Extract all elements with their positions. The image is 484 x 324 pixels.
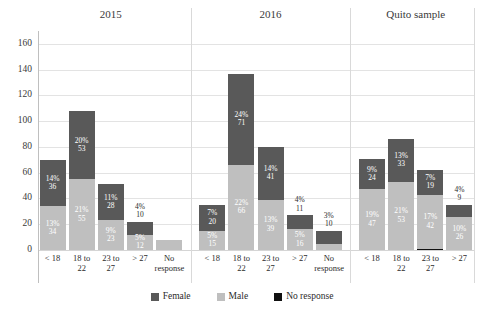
x-axis-tick-label: Noresponse — [155, 253, 184, 273]
bar-segment-female[interactable]: 7%20 — [199, 205, 225, 231]
bar-segment-male[interactable]: 5%16 — [287, 229, 313, 250]
legend-item-no-response[interactable]: No response — [274, 292, 333, 302]
stacked-bar-chart: 020406080100120140160 20152016Quito samp… — [0, 0, 484, 324]
segment-value-label: 20%53 — [75, 137, 89, 154]
y-axis-tick-label: 80 — [4, 142, 32, 152]
chart-legend: FemaleMaleNo response — [0, 292, 484, 302]
segment-value-label: 19%47 — [365, 211, 379, 228]
bar-segment-male[interactable]: 21%55 — [69, 179, 95, 250]
bar-column[interactable]: 20%5321%55 — [69, 111, 95, 250]
y-axis-tick-label: 120 — [4, 90, 32, 100]
segment-value-label: 21%55 — [75, 206, 89, 223]
segment-value-label-outside: 4%9 — [439, 186, 479, 203]
x-axis-tick-label: 18 to22 — [227, 253, 256, 273]
x-axis-tick-label: 18 to22 — [387, 253, 416, 273]
segment-value-label: 9%23 — [106, 227, 116, 244]
bar-segment-no-response[interactable] — [417, 249, 443, 250]
bars-layer: 14%3613%3420%5321%5511%289%235%124%107%2… — [38, 31, 474, 250]
bar-segment-male[interactable]: 10%26 — [446, 217, 472, 250]
bar-segment-female[interactable]: 13%33 — [388, 139, 414, 182]
segment-value-label: 22%66 — [235, 199, 249, 216]
bar-column[interactable]: 24%7122%66 — [228, 74, 254, 250]
segment-value-label: 13%33 — [394, 152, 408, 169]
y-axis-tick-label: 100 — [4, 116, 32, 126]
bar-segment-male[interactable]: 9%23 — [98, 220, 124, 250]
segment-value-label: 24%71 — [235, 111, 249, 128]
segment-value-label: 14%41 — [264, 165, 278, 182]
bar-column[interactable]: 10%26 — [446, 205, 472, 250]
segment-value-label: 9%24 — [367, 166, 377, 183]
bar-column[interactable] — [156, 240, 182, 250]
bar-segment-male[interactable]: 13%34 — [40, 206, 66, 250]
bar-segment-female[interactable]: 14%36 — [40, 160, 66, 206]
x-axis-tick-label: > 27 — [445, 253, 474, 263]
x-axis-tick-label: 23 to27 — [256, 253, 285, 273]
x-axis-tick-label: 23 to27 — [416, 253, 445, 273]
bar-column[interactable] — [316, 231, 342, 250]
x-axis-tick-label: Noresponse — [314, 253, 343, 273]
x-axis-tick-label: 23 to27 — [96, 253, 125, 273]
legend-item-male[interactable]: Male — [217, 292, 249, 302]
bar-segment-female[interactable]: 24%71 — [228, 74, 254, 165]
x-axis-tick-label: > 27 — [285, 253, 314, 263]
legend-swatch-icon — [274, 293, 282, 301]
y-axis-tick-label: 160 — [4, 39, 32, 49]
legend-label: Female — [163, 292, 191, 302]
x-axis-tick-label: < 18 — [357, 253, 386, 263]
x-axis-tick-label: < 18 — [198, 253, 227, 263]
y-axis-tick-label: 140 — [4, 65, 32, 75]
group-title: Quito sample — [357, 9, 474, 20]
bar-segment-female[interactable]: 9%24 — [359, 159, 385, 190]
x-axis-tick-label: < 18 — [38, 253, 67, 263]
legend-swatch-icon — [151, 293, 159, 301]
bar-column[interactable]: 14%3613%34 — [40, 160, 66, 250]
segment-value-label: 13%39 — [264, 216, 278, 233]
bar-segment-male[interactable]: 21%53 — [388, 182, 414, 250]
y-axis-tick-label: 20 — [4, 219, 32, 229]
segment-value-label: 14%36 — [46, 175, 60, 192]
bar-segment-female[interactable] — [446, 205, 472, 217]
segment-value-label-outside: 4%10 — [120, 203, 160, 220]
segment-value-label: 13%34 — [46, 220, 60, 237]
bar-column[interactable]: 13%3321%53 — [388, 139, 414, 250]
x-axis-tick-labels: < 1818 to2223 to27> 27Noresponse< 1818 t… — [38, 253, 474, 283]
group-title: 2015 — [38, 9, 184, 20]
bar-segment-female[interactable]: 20%53 — [69, 111, 95, 179]
bar-column[interactable]: 7%205%15 — [199, 205, 225, 250]
y-axis-tick-label: 60 — [4, 168, 32, 178]
group-title: 2016 — [198, 9, 344, 20]
segment-value-label-outside: 4%11 — [280, 196, 320, 213]
bar-segment-male[interactable] — [316, 244, 342, 250]
legend-swatch-icon — [217, 293, 225, 301]
bar-segment-female[interactable]: 14%41 — [258, 147, 284, 200]
segment-value-label: 17%42 — [423, 213, 437, 230]
plot-right-border — [474, 8, 475, 283]
bar-column[interactable]: 5%12 — [127, 222, 153, 250]
segment-value-label: 7%19 — [425, 174, 435, 191]
segment-value-label: 5%12 — [135, 234, 145, 251]
bar-segment-male[interactable]: 22%66 — [228, 165, 254, 250]
bar-segment-male[interactable]: 5%12 — [127, 235, 153, 250]
bar-column[interactable]: 9%2419%47 — [359, 159, 385, 250]
segment-value-label: 10%26 — [453, 225, 467, 242]
legend-label: No response — [286, 292, 333, 302]
segment-value-label: 7%20 — [207, 209, 217, 226]
bar-segment-male[interactable]: 5%15 — [199, 231, 225, 250]
bar-segment-female[interactable] — [316, 231, 342, 244]
segment-value-label: 21%53 — [394, 207, 408, 224]
bar-segment-male[interactable] — [156, 240, 182, 250]
segment-value-label: 5%16 — [295, 231, 305, 248]
bar-column[interactable]: 7%1917%42 — [417, 170, 443, 250]
y-axis-tick-label: 40 — [4, 193, 32, 203]
bar-segment-male[interactable]: 19%47 — [359, 189, 385, 250]
y-axis-tick-label: 0 — [4, 245, 32, 255]
y-axis-tick-labels: 020406080100120140160 — [4, 31, 34, 250]
segment-value-label: 11%28 — [104, 194, 117, 211]
segment-value-label: 5%15 — [207, 232, 217, 249]
legend-item-female[interactable]: Female — [151, 292, 191, 302]
legend-label: Male — [229, 292, 249, 302]
x-axis-tick-label: 18 to22 — [67, 253, 96, 273]
x-axis-tick-label: > 27 — [125, 253, 154, 263]
segment-value-label-outside: 3%10 — [309, 212, 349, 229]
grid-line — [38, 250, 474, 251]
